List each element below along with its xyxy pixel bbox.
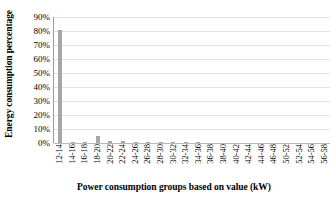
x-tick-slot: 14-16 bbox=[66, 144, 79, 180]
y-axis-title: Energy consumption percentage bbox=[0, 0, 18, 148]
x-tick-slot: 38-40 bbox=[217, 144, 230, 180]
y-axis-tick-label: 80% bbox=[34, 27, 51, 36]
bar-slot bbox=[154, 17, 167, 143]
x-axis-tick-label: 16-18 bbox=[80, 144, 89, 164]
plot-area bbox=[53, 17, 330, 143]
x-tick-slot: 52-54 bbox=[292, 144, 305, 180]
x-axis-tick-label: 12-14 bbox=[55, 144, 64, 164]
x-tick-slot: 50-52 bbox=[280, 144, 293, 180]
x-tick-slot: 36-38 bbox=[204, 144, 217, 180]
x-tick-slot: 34-36 bbox=[192, 144, 205, 180]
x-axis-tick-label: 50-52 bbox=[282, 144, 291, 164]
x-axis-tick-label: 46-48 bbox=[269, 144, 278, 164]
x-axis-tick-label: 56-58 bbox=[320, 144, 329, 164]
bar-slot bbox=[255, 17, 268, 143]
bar[interactable] bbox=[196, 142, 200, 143]
x-axis-tick-label: 14-16 bbox=[68, 144, 77, 164]
y-axis-tick-label: 40% bbox=[34, 83, 51, 92]
bar-slot bbox=[217, 17, 230, 143]
bar-chart: Energy consumption percentage 0%10%20%30… bbox=[0, 0, 332, 200]
bar[interactable] bbox=[159, 142, 163, 143]
bar-slot bbox=[192, 17, 205, 143]
x-axis-tick-label: 18-20 bbox=[93, 144, 102, 164]
bar-slot bbox=[230, 17, 243, 143]
x-tick-slot: 46-48 bbox=[267, 144, 280, 180]
x-axis-tick-label: 34-36 bbox=[194, 144, 203, 164]
y-axis-tick-labels: 0%10%20%30%40%50%60%70%80%90% bbox=[18, 17, 52, 143]
bar[interactable] bbox=[108, 141, 112, 143]
bar-slot bbox=[67, 17, 80, 143]
y-axis-tick-label: 10% bbox=[34, 125, 51, 134]
bar-series bbox=[54, 17, 330, 143]
bar-slot bbox=[142, 17, 155, 143]
x-tick-slot: 56-58 bbox=[317, 144, 330, 180]
bar[interactable] bbox=[83, 142, 87, 143]
bar-slot bbox=[205, 17, 218, 143]
y-axis-tick-label: 70% bbox=[34, 41, 51, 50]
x-axis-tick-label: 44-46 bbox=[257, 144, 266, 164]
x-axis-tick-label: 38-40 bbox=[219, 144, 228, 164]
bar-slot bbox=[317, 17, 330, 143]
x-axis-tick-label: 26-28 bbox=[143, 144, 152, 164]
x-axis-tick-label: 32-34 bbox=[181, 144, 190, 164]
x-axis-tick-labels: 12-1414-1616-1818-2020-2222-2424-2626-28… bbox=[53, 144, 330, 180]
x-axis-tick-label: 24-26 bbox=[131, 144, 140, 164]
bar[interactable] bbox=[134, 142, 138, 143]
x-tick-slot: 24-26 bbox=[129, 144, 142, 180]
bar-slot bbox=[117, 17, 130, 143]
bar[interactable] bbox=[58, 30, 62, 143]
x-tick-slot: 12-14 bbox=[53, 144, 66, 180]
bar-slot bbox=[242, 17, 255, 143]
bar[interactable] bbox=[96, 136, 100, 143]
x-axis-tick-label: 40-42 bbox=[231, 144, 240, 164]
y-axis-tick-label: 0% bbox=[38, 139, 50, 148]
y-axis-title-label: Energy consumption percentage bbox=[4, 10, 14, 138]
bar-slot bbox=[179, 17, 192, 143]
x-tick-slot: 42-44 bbox=[242, 144, 255, 180]
y-axis-tick-label: 90% bbox=[34, 13, 51, 22]
y-axis-tick-label: 50% bbox=[34, 69, 51, 78]
x-axis-tick-label: 30-32 bbox=[168, 144, 177, 164]
x-tick-slot: 32-34 bbox=[179, 144, 192, 180]
bar[interactable] bbox=[171, 142, 175, 143]
y-axis-tick-label: 60% bbox=[34, 55, 51, 64]
bar-slot bbox=[92, 17, 105, 143]
x-tick-slot: 40-42 bbox=[229, 144, 242, 180]
x-axis-tick-label: 54-56 bbox=[307, 144, 316, 164]
bar-slot bbox=[104, 17, 117, 143]
y-axis-tick-label: 20% bbox=[34, 111, 51, 120]
x-tick-slot: 20-22 bbox=[103, 144, 116, 180]
x-tick-slot: 26-28 bbox=[141, 144, 154, 180]
bar-slot bbox=[79, 17, 92, 143]
x-axis-title: Power consumption groups based on value … bbox=[18, 182, 330, 192]
x-tick-slot: 18-20 bbox=[91, 144, 104, 180]
x-axis-tick-label: 20-22 bbox=[105, 144, 114, 164]
bar[interactable] bbox=[71, 142, 75, 143]
x-tick-slot: 28-30 bbox=[154, 144, 167, 180]
bar[interactable] bbox=[121, 141, 125, 143]
x-tick-slot: 16-18 bbox=[78, 144, 91, 180]
bar-slot bbox=[280, 17, 293, 143]
x-axis-tick-label: 36-38 bbox=[206, 144, 215, 164]
x-tick-slot: 44-46 bbox=[255, 144, 268, 180]
x-tick-slot: 22-24 bbox=[116, 144, 129, 180]
x-axis-tick-label: 42-44 bbox=[244, 144, 253, 164]
x-tick-slot: 54-56 bbox=[305, 144, 318, 180]
bar-slot bbox=[129, 17, 142, 143]
y-axis-tick-label: 30% bbox=[34, 97, 51, 106]
x-axis-tick-label: 52-54 bbox=[294, 144, 303, 164]
x-axis-tick-label: 28-30 bbox=[156, 144, 165, 164]
bar-slot bbox=[292, 17, 305, 143]
bar-slot bbox=[54, 17, 67, 143]
bar[interactable] bbox=[146, 142, 150, 143]
x-tick-slot: 30-32 bbox=[166, 144, 179, 180]
bar-slot bbox=[305, 17, 318, 143]
x-axis-tick-label: 22-24 bbox=[118, 144, 127, 164]
bar-slot bbox=[267, 17, 280, 143]
bar-slot bbox=[167, 17, 180, 143]
